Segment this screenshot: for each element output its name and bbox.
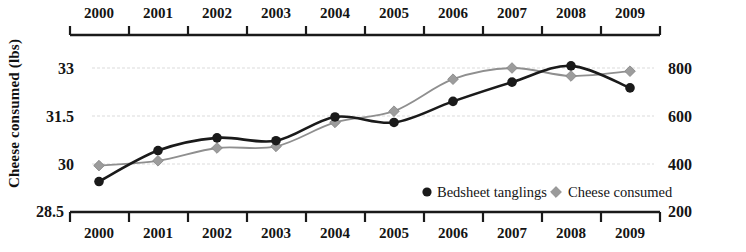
data-point-marker bbox=[389, 118, 399, 128]
top-xtick-2002: 2002 bbox=[187, 5, 247, 22]
data-point-marker bbox=[94, 177, 104, 187]
legend-diamond-icon bbox=[551, 187, 562, 198]
legend-label-bedsheet-tanglings: Bedsheet tanglings bbox=[437, 184, 547, 201]
top-xtick-2009: 2009 bbox=[600, 5, 660, 22]
top-xtick-2001: 2001 bbox=[128, 5, 188, 22]
top-xtick-2005: 2005 bbox=[364, 5, 424, 22]
right-ytick-1: 600 bbox=[668, 108, 728, 126]
bottom-xtick-2009: 2009 bbox=[600, 225, 660, 242]
data-point-marker bbox=[448, 97, 458, 107]
data-point-marker bbox=[212, 133, 222, 143]
bottom-xtick-2008: 2008 bbox=[541, 225, 601, 242]
top-xtick-2004: 2004 bbox=[305, 5, 365, 22]
series-cheese-consumed bbox=[94, 63, 636, 171]
top-xtick-2008: 2008 bbox=[541, 5, 601, 22]
top-xtick-2000: 2000 bbox=[69, 5, 129, 22]
left-ytick-2: 30 bbox=[14, 156, 74, 174]
bottom-xtick-2001: 2001 bbox=[128, 225, 188, 242]
bottom-axis bbox=[70, 212, 660, 222]
right-ytick-3: 200 bbox=[668, 203, 728, 221]
left-ytick-1: 31.5 bbox=[14, 108, 74, 126]
bottom-xtick-2000: 2000 bbox=[69, 225, 129, 242]
top-axis bbox=[70, 26, 660, 35]
bottom-xtick-2007: 2007 bbox=[482, 225, 542, 242]
top-xtick-2003: 2003 bbox=[246, 5, 306, 22]
data-point-marker bbox=[566, 61, 576, 71]
data-point-marker bbox=[507, 77, 517, 87]
data-point-marker bbox=[212, 143, 223, 154]
bottom-xtick-2006: 2006 bbox=[423, 225, 483, 242]
left-ytick-0: 33 bbox=[14, 60, 74, 78]
data-point-marker bbox=[94, 160, 105, 171]
data-point-marker bbox=[330, 112, 340, 122]
legend-label-cheese-consumed: Cheese consumed bbox=[568, 184, 672, 201]
data-point-marker bbox=[271, 136, 281, 146]
legend-circle-icon bbox=[422, 187, 431, 196]
data-point-marker bbox=[625, 83, 635, 93]
data-point-marker bbox=[153, 146, 163, 156]
series-line bbox=[99, 68, 630, 166]
spurious-correlation-chart: Cheese consumed (lbs) Deaths by bedsheet… bbox=[0, 0, 746, 252]
data-point-marker bbox=[507, 63, 518, 74]
bottom-xtick-2005: 2005 bbox=[364, 225, 424, 242]
data-point-marker bbox=[389, 106, 400, 117]
right-ytick-2: 400 bbox=[668, 156, 728, 174]
right-ytick-0: 800 bbox=[668, 60, 728, 78]
data-point-marker bbox=[448, 74, 459, 85]
top-xtick-2007: 2007 bbox=[482, 5, 542, 22]
bottom-xtick-2004: 2004 bbox=[305, 225, 365, 242]
left-ytick-3: 28.5 bbox=[4, 203, 64, 221]
top-xtick-2006: 2006 bbox=[423, 5, 483, 22]
data-point-marker bbox=[566, 71, 577, 82]
series-bedsheet-tanglings bbox=[94, 61, 635, 186]
plot-area bbox=[0, 0, 746, 252]
bottom-xtick-2002: 2002 bbox=[187, 225, 247, 242]
bottom-xtick-2003: 2003 bbox=[246, 225, 306, 242]
